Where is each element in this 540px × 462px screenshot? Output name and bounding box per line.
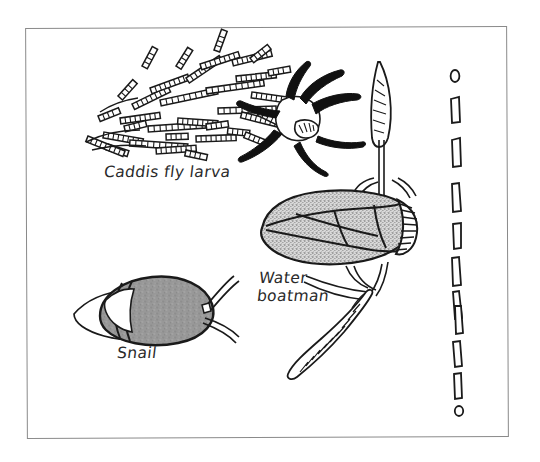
dashed-scale-rule	[451, 70, 464, 416]
caddis-fly-larva	[86, 29, 366, 176]
boatman-upper-oar-leg	[371, 62, 391, 196]
scale-rule-bottom-cap	[455, 406, 463, 416]
label-water-boatman: Water boatman	[256, 270, 332, 306]
scale-rule-dashes	[451, 97, 463, 399]
pond-invertebrates-plate	[0, 0, 540, 462]
snail-head	[202, 303, 211, 313]
scale-rule-top-cap	[451, 70, 460, 82]
illustration-page: Caddis fly larva Water boatman Snail	[0, 0, 540, 462]
label-snail: Snail	[116, 345, 158, 363]
label-caddis-fly-larva: Caddis fly larva	[103, 164, 232, 182]
snail	[74, 276, 239, 345]
boatman-body	[261, 190, 411, 264]
